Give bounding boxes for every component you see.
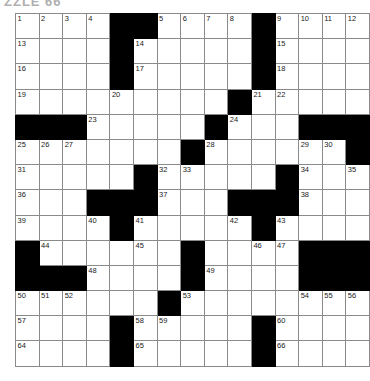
crossword-cell[interactable]: 41 [133,215,157,240]
crossword-cell[interactable] [346,89,370,114]
crossword-cell[interactable] [346,39,370,64]
crossword-cell[interactable] [228,64,252,89]
crossword-cell[interactable] [39,89,63,114]
crossword-cell[interactable] [63,39,87,64]
crossword-cell[interactable] [251,165,275,190]
crossword-cell[interactable]: 52 [63,291,87,316]
crossword-cell[interactable] [110,114,134,139]
crossword-cell[interactable]: 39 [16,215,40,240]
crossword-cell[interactable] [204,316,228,341]
crossword-cell[interactable]: 13 [16,39,40,64]
crossword-cell[interactable]: 66 [275,341,299,366]
crossword-cell[interactable]: 50 [16,291,40,316]
crossword-cell[interactable] [275,139,299,164]
crossword-cell[interactable] [39,39,63,64]
crossword-cell[interactable] [299,39,323,64]
crossword-cell[interactable] [39,190,63,215]
crossword-cell[interactable]: 33 [181,165,205,190]
crossword-cell[interactable] [157,39,181,64]
crossword-cell[interactable]: 16 [16,64,40,89]
crossword-cell[interactable] [133,89,157,114]
crossword-cell[interactable] [63,190,87,215]
crossword-cell[interactable]: 59 [157,316,181,341]
crossword-cell[interactable]: 10 [299,14,323,39]
crossword-cell[interactable]: 8 [228,14,252,39]
crossword-cell[interactable]: 44 [39,240,63,265]
crossword-cell[interactable]: 18 [275,64,299,89]
crossword-cell[interactable]: 30 [322,139,346,164]
crossword-cell[interactable] [181,89,205,114]
crossword-cell[interactable] [86,291,110,316]
crossword-cell[interactable]: 38 [299,190,323,215]
crossword-cell[interactable]: 55 [322,291,346,316]
crossword-cell[interactable] [39,316,63,341]
crossword-cell[interactable] [228,165,252,190]
crossword-cell[interactable] [133,139,157,164]
crossword-cell[interactable] [346,190,370,215]
crossword-cell[interactable]: 53 [181,291,205,316]
crossword-cell[interactable] [110,240,134,265]
crossword-cell[interactable] [322,215,346,240]
crossword-cell[interactable] [299,316,323,341]
crossword-cell[interactable] [39,215,63,240]
crossword-cell[interactable] [181,39,205,64]
crossword-cell[interactable] [204,190,228,215]
crossword-cell[interactable] [181,114,205,139]
crossword-cell[interactable] [275,265,299,290]
crossword-cell[interactable]: 65 [133,341,157,366]
crossword-cell[interactable]: 43 [275,215,299,240]
crossword-cell[interactable] [346,316,370,341]
crossword-cell[interactable]: 14 [133,39,157,64]
crossword-cell[interactable]: 32 [157,165,181,190]
crossword-cell[interactable]: 4 [86,14,110,39]
crossword-cell[interactable] [110,139,134,164]
crossword-cell[interactable] [322,341,346,366]
crossword-cell[interactable]: 46 [251,240,275,265]
crossword-cell[interactable]: 28 [204,139,228,164]
crossword-cell[interactable] [228,265,252,290]
crossword-cell[interactable] [63,165,87,190]
crossword-cell[interactable] [228,39,252,64]
crossword-cell[interactable] [133,291,157,316]
crossword-cell[interactable] [322,64,346,89]
crossword-cell[interactable] [251,265,275,290]
crossword-cell[interactable] [204,89,228,114]
crossword-cell[interactable] [157,341,181,366]
crossword-cell[interactable] [86,39,110,64]
crossword-cell[interactable] [63,316,87,341]
crossword-cell[interactable] [86,341,110,366]
crossword-cell[interactable]: 5 [157,14,181,39]
crossword-cell[interactable]: 9 [275,14,299,39]
crossword-cell[interactable]: 35 [346,165,370,190]
crossword-cell[interactable]: 12 [346,14,370,39]
crossword-cell[interactable] [86,64,110,89]
crossword-cell[interactable] [181,64,205,89]
crossword-cell[interactable]: 40 [86,215,110,240]
crossword-cell[interactable] [322,39,346,64]
crossword-cell[interactable] [86,316,110,341]
crossword-cell[interactable]: 47 [275,240,299,265]
crossword-cell[interactable] [86,89,110,114]
crossword-cell[interactable] [228,341,252,366]
crossword-cell[interactable]: 26 [39,139,63,164]
crossword-cell[interactable]: 6 [181,14,205,39]
crossword-cell[interactable] [110,265,134,290]
crossword-cell[interactable] [133,265,157,290]
crossword-cell[interactable]: 17 [133,64,157,89]
crossword-cell[interactable]: 21 [251,89,275,114]
crossword-grid[interactable]: 1234567891011121314151617181920212223242… [15,13,370,367]
crossword-cell[interactable] [299,341,323,366]
crossword-cell[interactable] [63,89,87,114]
crossword-cell[interactable]: 45 [133,240,157,265]
crossword-cell[interactable] [251,291,275,316]
crossword-cell[interactable]: 56 [346,291,370,316]
crossword-cell[interactable] [157,89,181,114]
crossword-cell[interactable] [322,165,346,190]
crossword-cell[interactable]: 31 [16,165,40,190]
crossword-cell[interactable] [346,64,370,89]
crossword-cell[interactable] [322,190,346,215]
crossword-cell[interactable] [39,165,63,190]
crossword-cell[interactable] [63,215,87,240]
crossword-cell[interactable]: 54 [299,291,323,316]
crossword-cell[interactable] [228,240,252,265]
